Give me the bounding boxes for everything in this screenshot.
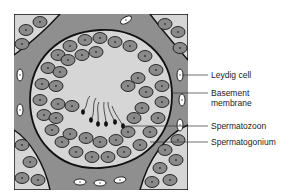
label-spermatogonium: Spermatogonium: [211, 137, 276, 147]
label-basement-line2: membrane: [211, 98, 252, 108]
label-basement-line1: Basement: [211, 88, 249, 98]
label-leydig-cell: Leydig cell: [211, 70, 251, 80]
label-spermatozoon: Spermatozoon: [211, 121, 266, 131]
tissue-section: [14, 14, 188, 190]
seminiferous-tubule: [30, 30, 172, 168]
